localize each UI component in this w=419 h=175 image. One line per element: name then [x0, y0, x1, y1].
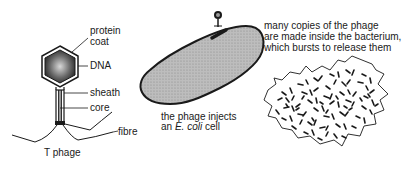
caption-lysis-line1: many copies of the phage — [264, 21, 379, 32]
label-protein-coat-line2: coat — [90, 37, 109, 47]
label-fibre: fibre — [118, 127, 137, 137]
caption-injection-line2: an E. coli cell — [161, 122, 220, 133]
caption-ecoli-italic: E. coli — [175, 121, 202, 132]
lysing-bacterium-drawing — [264, 56, 388, 146]
caption-injection-suffix: cell — [202, 121, 220, 132]
burst-membrane-icon — [264, 56, 388, 146]
caption-t-phage: T phage — [44, 148, 81, 158]
caption-injection-prefix: an — [161, 121, 175, 132]
bacterium-icon — [140, 26, 263, 104]
label-protein-coat-line1: protein — [90, 26, 121, 36]
caption-lysis-line2: are made inside the bacterium, — [264, 32, 401, 43]
label-dna: DNA — [90, 61, 111, 71]
caption-lysis-line3: which bursts to release them — [264, 43, 391, 54]
label-core: core — [90, 103, 109, 113]
label-sheath: sheath — [90, 88, 120, 98]
ecoli-cell-drawing — [140, 11, 263, 104]
phage-tail-icon — [55, 90, 65, 125]
